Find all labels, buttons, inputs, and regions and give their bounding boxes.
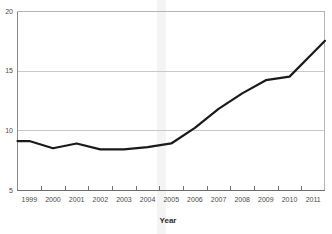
- x-axis-tick-label: 2009: [258, 196, 274, 203]
- x-axis-tick-label: 2000: [45, 196, 61, 203]
- y-axis-tick-label: 5: [9, 187, 13, 194]
- x-axis-tick-label: 2008: [234, 196, 250, 203]
- x-axis-tick-label: 2006: [187, 196, 203, 203]
- line-chart: 2015105 19992000200120022003200420052006…: [0, 0, 332, 234]
- x-axis-tick-label: 2002: [92, 196, 108, 203]
- y-axis-tick-label: 20: [5, 8, 13, 15]
- chart-svg: 2015105 19992000200120022003200420052006…: [0, 0, 332, 234]
- x-axis-tick-label: 2005: [163, 196, 179, 203]
- x-axis-tick-label: 2004: [140, 196, 156, 203]
- y-axis-tick-label: 15: [5, 67, 13, 74]
- x-axis-tick-label: 2010: [282, 196, 298, 203]
- x-axis-tick-label: 1999: [22, 196, 38, 203]
- x-axis-tick-label: 2011: [306, 196, 321, 203]
- y-axis-tick-label: 10: [5, 127, 13, 134]
- x-axis-tick-label: 2003: [116, 196, 132, 203]
- x-axis-tick-label: 2007: [211, 196, 227, 203]
- x-axis-title: Year: [160, 216, 177, 225]
- x-axis-tick-label: 2001: [69, 196, 85, 203]
